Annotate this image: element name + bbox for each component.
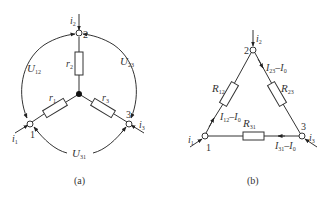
branch-arrow-i12 bbox=[209, 118, 214, 127]
resistor-label-r1: r1 bbox=[49, 92, 56, 104]
resistor-R31 bbox=[243, 132, 264, 140]
current-arrow-i1 bbox=[15, 125, 28, 133]
node-1 bbox=[27, 121, 33, 127]
voltage-label-u23: U23 bbox=[120, 55, 134, 68]
branch-arrow-i23 bbox=[258, 59, 263, 68]
resistor-label-R31: R31 bbox=[242, 117, 256, 130]
node-label-3: 3 bbox=[126, 109, 131, 120]
resistor-r2 bbox=[75, 52, 83, 75]
voltage-label-u31: U31 bbox=[72, 147, 86, 160]
resistor-label-r2: r2 bbox=[66, 58, 73, 70]
node-3 bbox=[126, 121, 132, 127]
current-label-i3: i3 bbox=[139, 119, 145, 131]
caption-b: (b) bbox=[247, 175, 259, 187]
node-label-2: 2 bbox=[244, 45, 249, 56]
node-2 bbox=[76, 30, 82, 36]
branch-current-label-i31: I31–I0 bbox=[274, 140, 296, 152]
node-1 bbox=[202, 133, 208, 139]
current-label-i2: i2 bbox=[256, 33, 262, 45]
resistor-label-R12: R12 bbox=[211, 82, 225, 95]
voltage-label-u12: U12 bbox=[27, 62, 41, 75]
voltage-arc-u31 bbox=[34, 127, 126, 153]
caption-a: (a) bbox=[74, 175, 85, 187]
node-label-2: 2 bbox=[83, 29, 88, 40]
resistor-label-R23: R23 bbox=[280, 82, 294, 95]
node-2 bbox=[250, 47, 256, 53]
node-label-1: 1 bbox=[206, 142, 211, 153]
current-label-i2: i2 bbox=[70, 15, 76, 27]
node-label-1: 1 bbox=[30, 129, 35, 140]
current-label-i1: i1 bbox=[188, 134, 194, 146]
current-label-i3: i3 bbox=[309, 132, 315, 144]
voltage-arrow-u31-right bbox=[122, 127, 126, 132]
branch-current-label-i23: I23–I0 bbox=[265, 62, 287, 74]
wire bbox=[283, 104, 300, 133]
wire bbox=[234, 53, 251, 84]
circuit-diagrams: 2 1 3 i2 i1 i3 r2 r1 r3 U12 U23 U31 (a) bbox=[0, 0, 328, 199]
resistor-label-r3: r3 bbox=[102, 92, 109, 104]
node-3 bbox=[299, 133, 305, 139]
star-center-node bbox=[76, 91, 82, 97]
wire bbox=[32, 114, 44, 122]
current-label-i1: i1 bbox=[12, 133, 18, 145]
node-label-3: 3 bbox=[301, 121, 306, 132]
branch-current-label-i12: I12–I0 bbox=[219, 111, 241, 123]
